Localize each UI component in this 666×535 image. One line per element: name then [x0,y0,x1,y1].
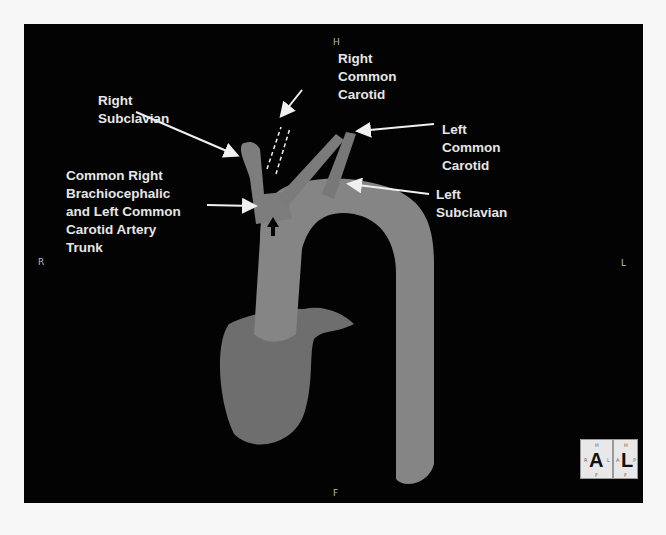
cube-side-letter: L [621,449,633,472]
cube-side-top: H [624,442,628,448]
cube-side-bottom: F [624,472,627,478]
label-right-common-carotid: Right Common Carotid [338,50,397,104]
orientation-top-label: H [333,37,340,47]
label-left-common-carotid: Left Common Carotid [442,121,501,175]
cube-front-top: H [595,442,599,448]
cube-side-left: A [616,457,619,463]
cube-front-left: R [584,457,587,463]
cube-front-letter: A [589,449,603,472]
label-common-trunk: Common Right Brachiocephalic and Left Co… [66,167,181,257]
cube-front-bottom: F [595,472,598,478]
orientation-cube: A H F R L L H F A P [580,439,638,481]
cube-front-right: L [607,457,610,463]
cube-front-face: A H F R L [580,439,613,479]
label-left-subclavian: Left Subclavian [436,186,507,222]
orientation-right-label: L [621,258,626,268]
orientation-bottom-label: F [333,488,338,498]
cube-side-right: P [633,457,636,463]
label-right-subclavian: Right Subclavian [98,92,169,128]
orientation-left-label: R [38,257,44,267]
image-panel: H F R L Right Subclavian Right Common Ca… [24,24,643,503]
cube-side-face: L H F A P [613,439,638,479]
